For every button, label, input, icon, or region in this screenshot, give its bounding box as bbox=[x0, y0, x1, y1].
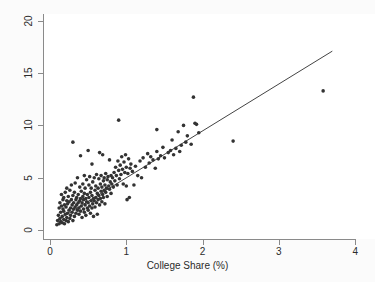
data-point bbox=[155, 150, 159, 154]
data-point bbox=[149, 155, 153, 159]
data-point bbox=[97, 194, 101, 198]
data-point bbox=[113, 179, 117, 183]
data-point bbox=[71, 140, 75, 144]
data-point bbox=[73, 181, 77, 185]
data-point bbox=[118, 163, 122, 167]
data-point bbox=[85, 178, 89, 182]
x-tick-mark bbox=[203, 240, 204, 245]
data-point bbox=[90, 194, 94, 198]
data-point bbox=[109, 192, 113, 196]
data-point bbox=[62, 196, 66, 200]
data-point bbox=[184, 140, 188, 144]
data-point bbox=[77, 213, 81, 217]
data-point bbox=[105, 178, 109, 182]
y-tick-mark bbox=[38, 178, 43, 179]
data-point bbox=[128, 166, 132, 170]
data-point bbox=[91, 180, 95, 184]
y-tick-label: 0 bbox=[24, 220, 34, 240]
data-point bbox=[63, 222, 67, 226]
data-point bbox=[93, 205, 97, 209]
data-point bbox=[146, 152, 150, 156]
x-tick-label: 3 bbox=[269, 247, 289, 257]
data-point bbox=[75, 196, 79, 200]
data-point bbox=[70, 198, 74, 202]
data-point bbox=[84, 197, 88, 201]
data-point bbox=[112, 171, 116, 175]
data-point bbox=[67, 220, 71, 224]
data-point bbox=[70, 183, 74, 187]
data-point bbox=[101, 193, 105, 197]
data-point bbox=[80, 201, 84, 205]
data-point bbox=[63, 191, 67, 195]
data-point bbox=[111, 176, 115, 180]
data-point bbox=[65, 186, 69, 190]
y-tick-mark bbox=[38, 21, 43, 22]
data-point bbox=[59, 210, 63, 214]
data-point bbox=[122, 160, 126, 164]
data-point bbox=[92, 176, 96, 180]
data-point bbox=[157, 157, 161, 161]
y-tick-label: 20 bbox=[24, 11, 34, 31]
data-point bbox=[100, 200, 104, 204]
data-point bbox=[90, 206, 94, 210]
data-point bbox=[141, 156, 145, 160]
data-point bbox=[147, 161, 151, 165]
data-point bbox=[121, 182, 125, 186]
data-point bbox=[89, 191, 93, 195]
data-point bbox=[116, 159, 120, 163]
data-point bbox=[321, 89, 325, 93]
data-point bbox=[197, 131, 201, 135]
data-point bbox=[106, 175, 110, 179]
data-point bbox=[169, 149, 173, 153]
data-point bbox=[178, 150, 182, 154]
y-tick-label: 10 bbox=[24, 115, 34, 135]
x-tick-mark bbox=[50, 240, 51, 245]
data-point bbox=[125, 184, 129, 188]
data-point bbox=[114, 165, 118, 169]
data-point bbox=[81, 182, 85, 186]
data-point bbox=[87, 183, 91, 187]
data-point bbox=[64, 205, 68, 209]
data-point bbox=[89, 211, 93, 215]
data-point bbox=[99, 182, 103, 186]
data-point bbox=[86, 208, 90, 212]
data-point bbox=[189, 142, 193, 146]
data-point bbox=[68, 188, 72, 192]
x-tick-mark bbox=[355, 240, 356, 245]
data-point bbox=[172, 153, 176, 157]
data-point bbox=[83, 203, 87, 207]
x-tick-label: 2 bbox=[193, 247, 213, 257]
data-point bbox=[97, 177, 101, 181]
data-point bbox=[174, 147, 178, 151]
data-point bbox=[60, 193, 64, 197]
data-point bbox=[112, 185, 116, 189]
data-point bbox=[155, 128, 159, 132]
data-point bbox=[79, 154, 83, 158]
data-point bbox=[102, 196, 106, 200]
data-point bbox=[87, 196, 91, 200]
data-point bbox=[140, 176, 144, 180]
data-point bbox=[153, 166, 157, 170]
data-point bbox=[79, 190, 83, 194]
data-point bbox=[86, 193, 90, 197]
data-point bbox=[78, 185, 82, 189]
data-point bbox=[231, 139, 235, 143]
data-point bbox=[128, 196, 132, 200]
data-point bbox=[159, 154, 163, 158]
data-point bbox=[105, 195, 109, 199]
data-point bbox=[107, 184, 111, 188]
data-point bbox=[124, 153, 128, 157]
data-point bbox=[73, 191, 77, 195]
data-point bbox=[179, 143, 183, 147]
data-point bbox=[68, 217, 72, 221]
data-point bbox=[117, 169, 121, 173]
data-point bbox=[127, 157, 131, 161]
data-point bbox=[79, 209, 83, 213]
data-point bbox=[60, 215, 64, 219]
data-point bbox=[69, 206, 73, 210]
data-point bbox=[67, 195, 71, 199]
data-point bbox=[57, 214, 61, 218]
data-point bbox=[121, 168, 125, 172]
x-tick-mark bbox=[279, 240, 280, 245]
data-point bbox=[72, 201, 76, 205]
